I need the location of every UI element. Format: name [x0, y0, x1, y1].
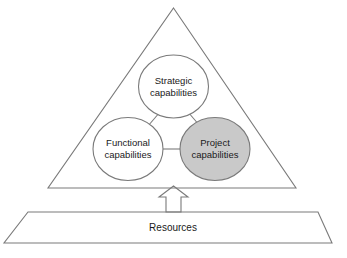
resources-label: Resources — [149, 222, 197, 233]
diagram-canvas: Strategic capabilities Functional capabi… — [0, 0, 347, 258]
node-strategic-label-line1: Strategic — [155, 75, 193, 86]
capabilities-pyramid-diagram: Strategic capabilities Functional capabi… — [0, 0, 347, 258]
upward-arrow-icon — [159, 186, 188, 212]
node-functional-label-line1: Functional — [106, 137, 150, 148]
node-functional-label-line2: capabilities — [105, 149, 152, 160]
node-project-label-line2: capabilities — [192, 149, 239, 160]
node-strategic-label-line2: capabilities — [150, 87, 197, 98]
node-project-label-line1: Project — [200, 137, 230, 148]
